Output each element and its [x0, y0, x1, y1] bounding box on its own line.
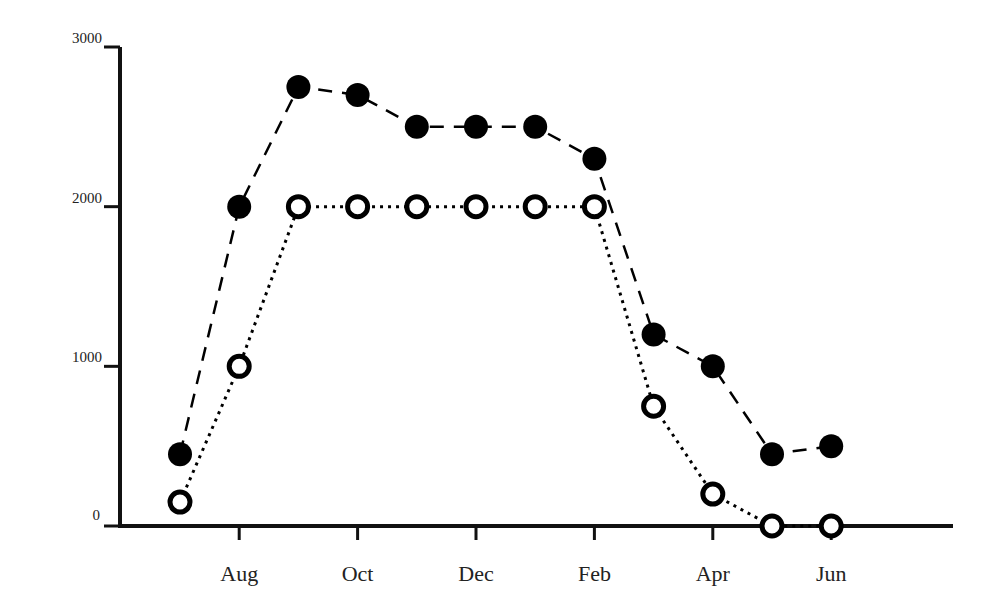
y-tick-label: 0 [93, 507, 101, 523]
y-axis-ticks: 0100020003000 [72, 30, 120, 526]
x-axis-ticks: AugOctDecFebAprJun [220, 526, 846, 586]
x-tick-label: Apr [696, 561, 731, 586]
data-point-open [821, 516, 841, 536]
x-tick-label: Dec [458, 561, 494, 586]
data-point-open [348, 197, 368, 217]
data-point-filled [286, 75, 310, 99]
data-point-filled [405, 115, 429, 139]
data-point-filled [582, 147, 606, 171]
data-point-open [525, 197, 545, 217]
data-point-filled [819, 434, 843, 458]
series-line [180, 87, 831, 454]
data-point-open [229, 356, 249, 376]
x-tick-label: Oct [342, 561, 374, 586]
x-tick-label: Jun [816, 561, 847, 586]
data-point-open [584, 197, 604, 217]
line-chart: 0100020003000 AugOctDecFebAprJun [0, 0, 999, 615]
data-point-filled [227, 195, 251, 219]
x-tick-label: Aug [220, 561, 258, 586]
data-point-open [288, 197, 308, 217]
y-tick-label: 2000 [72, 190, 102, 206]
y-tick-label: 3000 [72, 30, 102, 46]
data-point-filled [760, 442, 784, 466]
data-point-open [762, 516, 782, 536]
data-point-open [466, 197, 486, 217]
series-line [180, 207, 831, 526]
data-point-filled [346, 83, 370, 107]
data-point-filled [464, 115, 488, 139]
series-a-line [168, 75, 843, 466]
data-point-open [407, 197, 427, 217]
series-b-line [170, 197, 841, 536]
x-tick-label: Feb [578, 561, 611, 586]
y-tick-label: 1000 [72, 349, 102, 365]
data-point-open [703, 484, 723, 504]
data-point-filled [642, 322, 666, 346]
data-point-open [644, 396, 664, 416]
data-point-filled [701, 354, 725, 378]
data-point-open [170, 492, 190, 512]
data-point-filled [523, 115, 547, 139]
data-point-filled [168, 442, 192, 466]
